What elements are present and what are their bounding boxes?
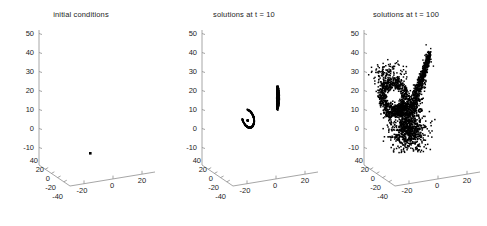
ztick-label: 40 [26,48,34,57]
ytick-label: 20 [199,165,207,174]
ytick-label: 40 [30,156,38,165]
figure-canvas: initial conditions 50 40 30 20 10 0 -10 [0,0,487,226]
ztick-label: -10 [348,143,359,152]
axes-3d: 50 40 30 20 10 0 -10 40 20 0 -20 -40 -20… [163,0,325,226]
xtick-label: 0 [273,181,277,190]
ztick-label: 10 [189,105,197,114]
xtick-label: 20 [463,176,471,185]
subplot-solutions-t100: solutions at t = 100 50 40 30 20 10 0 -1… [325,0,487,226]
ztick-label: 20 [351,86,359,95]
ztick-label: 30 [351,67,359,76]
xtick-label: 20 [301,176,309,185]
xtick-label: 20 [138,176,146,185]
ztick-label: 30 [189,67,197,76]
ytick-label: 20 [36,165,44,174]
axes-3d: 50 40 30 20 10 0 -10 40 20 0 -20 -40 -20… [325,0,487,226]
ztick-label: 40 [189,48,197,57]
xtick-label: -20 [240,186,251,195]
axes-3d: 50 40 30 20 10 0 -10 40 20 0 -20 -40 -20… [0,0,162,226]
ytick-label: 0 [371,174,375,183]
data-points [368,44,436,153]
ztick-label: 20 [189,86,197,95]
ytick-label: -40 [52,192,63,201]
ztick-label: 40 [351,48,359,57]
ytick-label: 0 [209,174,213,183]
ytick-label: -20 [45,183,56,192]
ytick-label: 40 [193,156,201,165]
ztick-label: 50 [351,29,359,38]
ztick-label: -10 [23,143,34,152]
ztick-label: 50 [26,29,34,38]
ztick-label: 10 [351,105,359,114]
ztick-label: 10 [26,105,34,114]
xtick-label: -20 [402,186,413,195]
ztick-label: -10 [186,143,197,152]
ztick-label: 0 [355,124,359,133]
ytick-label: -40 [377,192,388,201]
ytick-label: 40 [355,156,363,165]
ztick-label: 50 [189,29,197,38]
ztick-label: 0 [30,124,34,133]
ytick-label: 20 [361,165,369,174]
xtick-label: 0 [110,181,114,190]
xtick-label: 0 [435,181,439,190]
subplot-solutions-t10: solutions at t = 10 50 40 30 20 10 0 -10… [163,0,325,226]
ytick-label: 0 [46,174,50,183]
subplot-initial-conditions: initial conditions 50 40 30 20 10 0 -10 [0,0,162,226]
data-points [89,152,92,155]
ztick-label: 20 [26,86,34,95]
ytick-label: -40 [215,192,226,201]
xtick-label: -20 [77,186,88,195]
ztick-label: 30 [26,67,34,76]
ytick-label: -20 [370,183,381,192]
data-points [242,86,281,129]
ytick-label: -20 [208,183,219,192]
ztick-label: 0 [193,124,197,133]
